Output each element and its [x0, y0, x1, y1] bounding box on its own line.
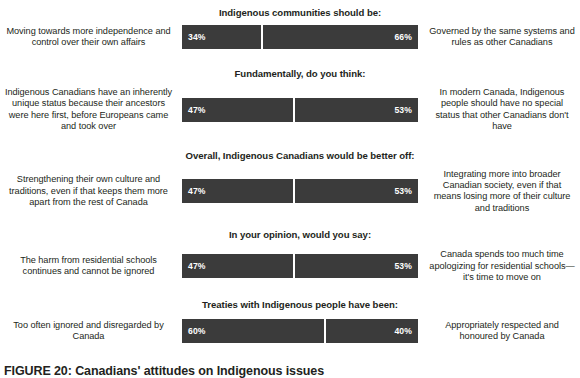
chart-row: In your opinion, would you say: The harm…	[0, 229, 580, 283]
bar-segment-left: 47%	[182, 179, 293, 203]
bar-track: 60% 40%	[182, 319, 418, 343]
chart-row: Treaties with Indigenous people have bee…	[0, 299, 580, 343]
row-header: Fundamentally, do you think:	[182, 68, 418, 80]
bar-segment-right: 53%	[295, 98, 418, 122]
figure-caption: FIGURE 20: Canadians' attitudes on Indig…	[4, 364, 324, 378]
row-header: Treaties with Indigenous people have bee…	[182, 299, 418, 311]
row-body: Too often ignored and disregarded by Can…	[0, 319, 580, 343]
row-body: Strengthening their own culture and trad…	[0, 169, 580, 215]
bar-value-left: 34%	[182, 32, 212, 42]
bar-segment-right: 66%	[263, 25, 418, 49]
figure-chart: Indigenous communities should be: Moving…	[0, 7, 580, 374]
bar-segment-left: 60%	[182, 319, 324, 343]
row-body: Moving towards more independence and con…	[0, 25, 580, 49]
bar-segment-right: 53%	[295, 254, 418, 278]
bar-track: 34% 66%	[182, 25, 418, 49]
row-body: Indigenous Canadians have an inherently …	[0, 87, 580, 133]
bar-value-left: 47%	[182, 186, 212, 196]
bar-value-right: 53%	[388, 105, 418, 115]
bar-segment-right: 40%	[326, 319, 418, 343]
row-left-label: Moving towards more independence and con…	[0, 26, 182, 49]
bar-segment-left: 34%	[182, 25, 261, 49]
row-body: The harm from residential schools contin…	[0, 249, 580, 283]
row-left-label: Indigenous Canadians have an inherently …	[0, 87, 182, 133]
row-header: Overall, Indigenous Canadians would be b…	[170, 150, 430, 162]
bar-value-left: 47%	[182, 105, 212, 115]
bar-value-right: 40%	[388, 326, 418, 336]
bar-track: 47% 53%	[182, 254, 418, 278]
row-right-label: Integrating more into broader Canadian s…	[418, 169, 580, 215]
row-right-label: Appropriately respected and honoured by …	[418, 320, 580, 343]
row-right-label: Canada spends too much time apologizing …	[418, 249, 580, 283]
chart-row: Indigenous communities should be: Moving…	[0, 7, 580, 49]
bar-segment-right: 53%	[295, 179, 418, 203]
row-left-label: Too often ignored and disregarded by Can…	[0, 320, 182, 343]
bar-segment-left: 47%	[182, 98, 293, 122]
row-left-label: Strengthening their own culture and trad…	[0, 174, 182, 208]
chart-row: Fundamentally, do you think: Indigenous …	[0, 68, 580, 133]
bar-value-right: 53%	[388, 186, 418, 196]
bar-value-left: 47%	[182, 261, 212, 271]
row-right-label: Governed by the same systems and rules a…	[418, 26, 580, 49]
bar-track: 47% 53%	[182, 98, 418, 122]
bar-track: 47% 53%	[182, 179, 418, 203]
row-right-label: In modern Canada, Indigenous people shou…	[418, 87, 580, 133]
bar-value-left: 60%	[182, 326, 212, 336]
chart-row: Overall, Indigenous Canadians would be b…	[0, 150, 580, 215]
row-header: Indigenous communities should be:	[182, 7, 418, 19]
row-left-label: The harm from residential schools contin…	[0, 255, 182, 278]
bar-value-right: 53%	[388, 261, 418, 271]
row-header: In your opinion, would you say:	[182, 229, 418, 241]
bar-segment-left: 47%	[182, 254, 293, 278]
bar-value-right: 66%	[388, 32, 418, 42]
row-header-text: Overall, Indigenous Canadians would be b…	[186, 150, 415, 161]
